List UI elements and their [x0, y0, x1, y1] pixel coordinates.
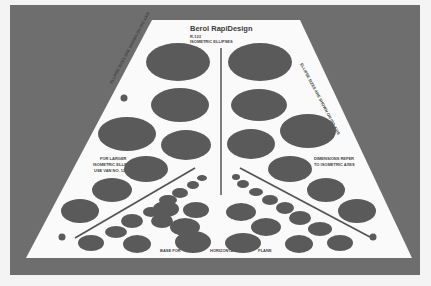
note-left-1: FOR LARGER — [100, 156, 127, 161]
note-right-2: TO ISOMETRIC AXES — [314, 162, 355, 167]
note-left-3: USE VAN NO. 124 — [94, 168, 128, 173]
note-right-1: DIMENSIONS REFER — [314, 156, 354, 161]
bottom-label-1: BASE FOR — [160, 248, 181, 253]
bottom-label-3: PLANE — [258, 248, 272, 253]
brand-text: Berol RapiDesign — [190, 24, 253, 33]
template-drawing: Berol RapiDesign R-123 ISOMETRIC ELLIPSE… — [0, 0, 431, 286]
title-text: ISOMETRIC ELLIPSES — [190, 39, 233, 44]
